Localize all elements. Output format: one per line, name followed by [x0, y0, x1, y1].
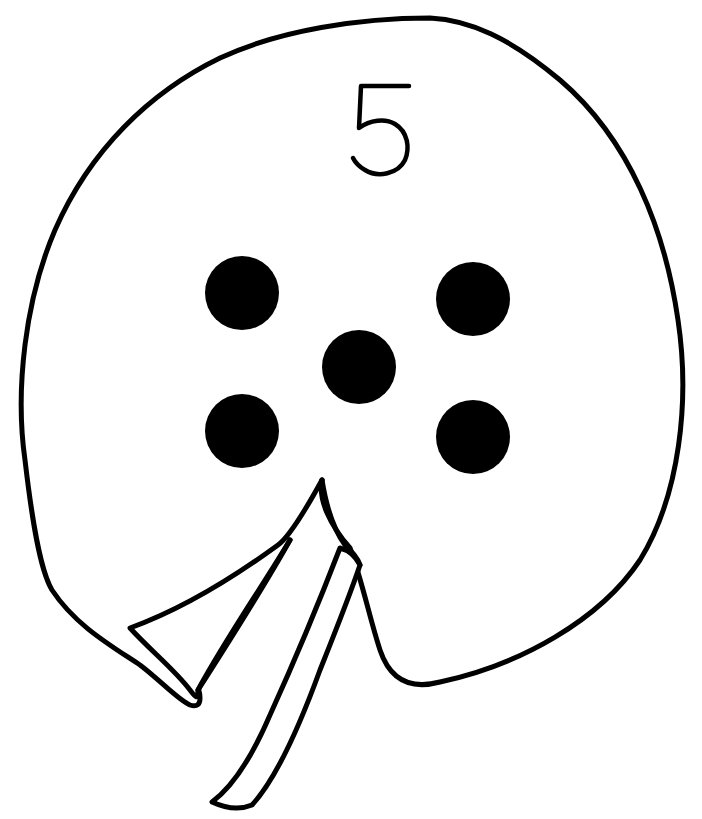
dot-top-right — [436, 262, 510, 336]
lily-pad-illustration: 5 — [0, 0, 702, 819]
dot-top-left — [205, 256, 279, 330]
dot-bottom-right — [436, 400, 510, 474]
dot-bottom-left — [205, 394, 279, 468]
dot-center — [322, 330, 396, 404]
